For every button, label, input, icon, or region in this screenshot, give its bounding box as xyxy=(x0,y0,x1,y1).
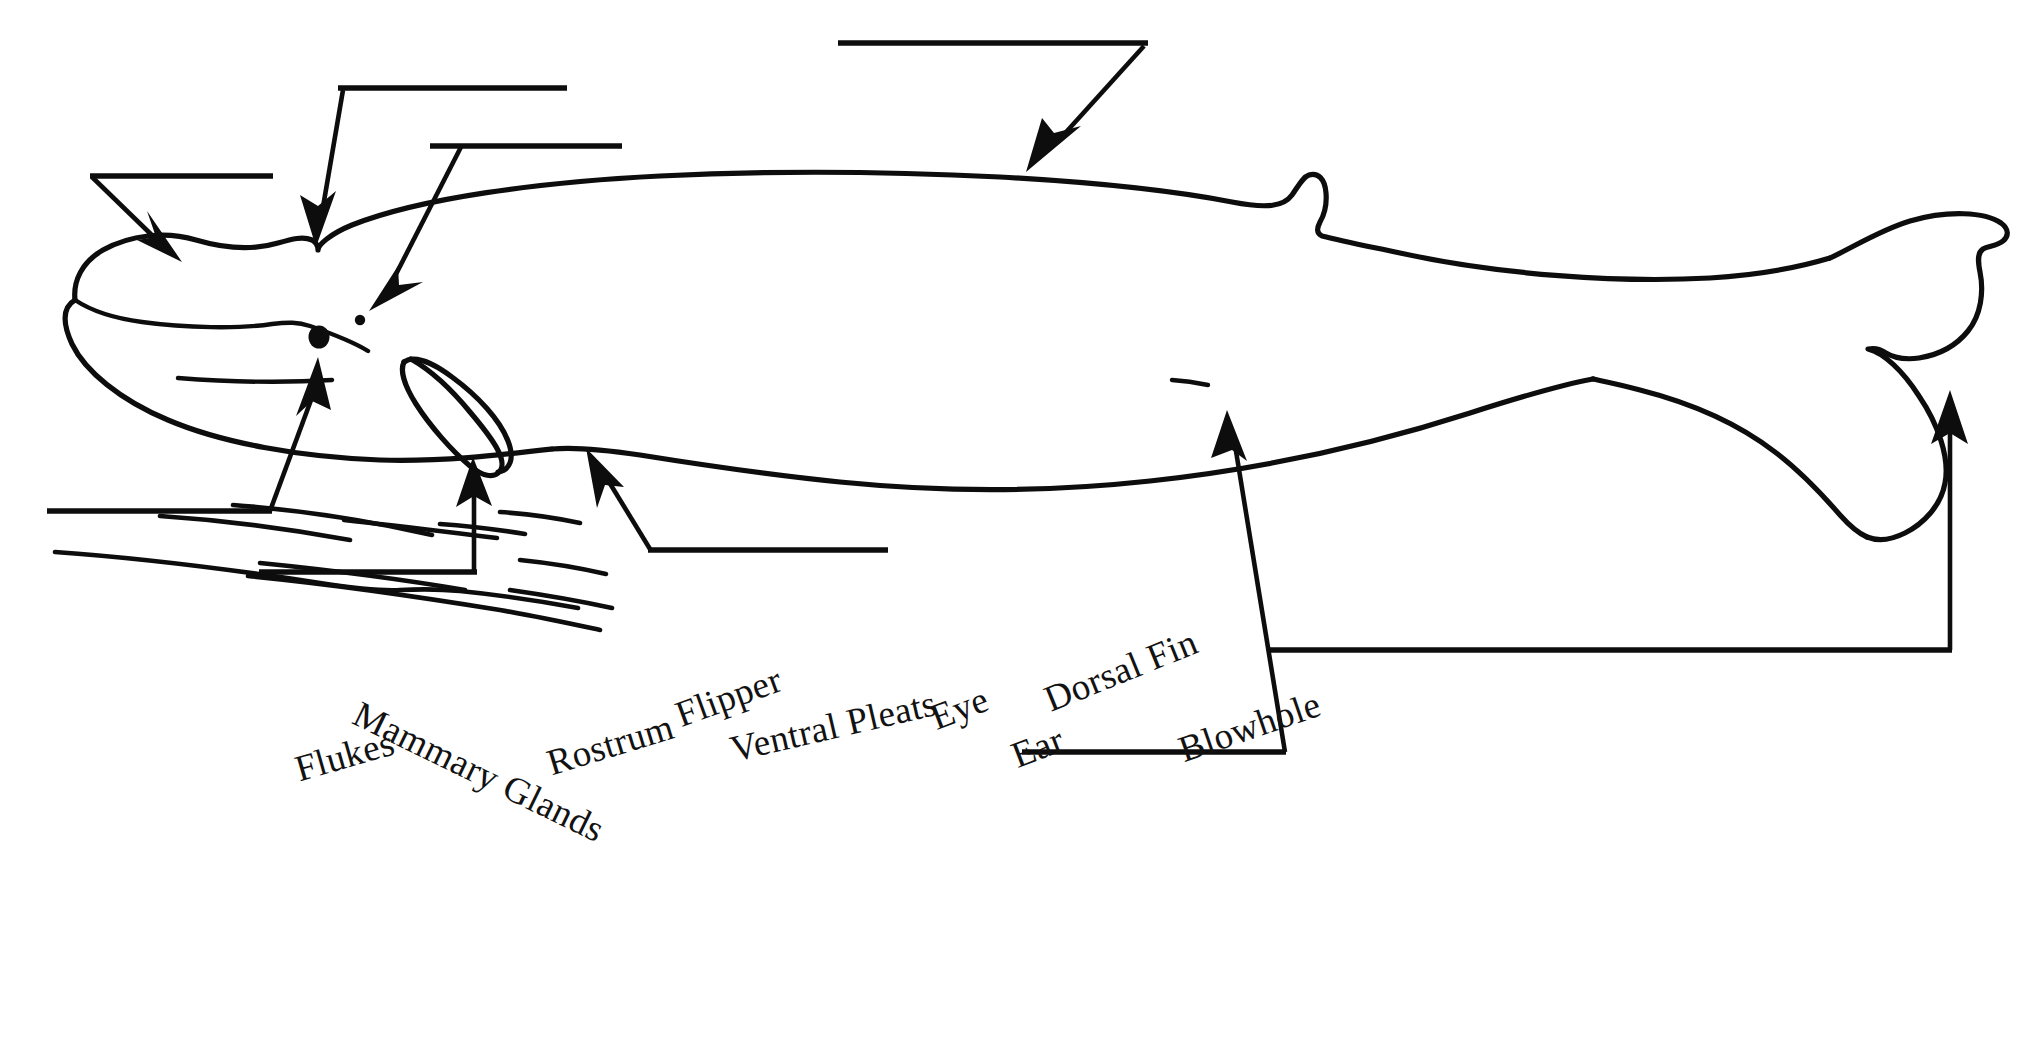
whale-body-outline xyxy=(65,172,2007,539)
dorsal-contour xyxy=(75,172,1830,300)
answer-blank-ventral-pleats[interactable] xyxy=(259,457,492,572)
worksheet-page: Flukes Mammary Glands Rostrum Flipper Ve… xyxy=(0,0,2023,1045)
pleat-line-4 xyxy=(55,552,578,608)
leader-rostrum xyxy=(92,177,160,243)
arrowhead-ear xyxy=(369,266,423,311)
leader-dorsal-fin xyxy=(1058,46,1144,141)
ventral-slit-mark xyxy=(1172,380,1208,385)
ear-dot xyxy=(355,315,365,325)
leader-ear xyxy=(392,147,461,282)
answer-blank-ear[interactable] xyxy=(369,146,622,311)
fluke-upper-lobe xyxy=(1830,214,2007,359)
answer-blank-flukes[interactable] xyxy=(1268,390,1968,650)
ventral-contour xyxy=(552,379,1593,489)
answer-blank-blowhole[interactable] xyxy=(300,88,567,247)
ventral-pleats xyxy=(55,505,612,630)
fluke-lower-lobe xyxy=(1867,349,1946,540)
answer-blank-dorsal-fin[interactable] xyxy=(838,43,1148,172)
answer-blank-flipper[interactable] xyxy=(586,448,888,550)
pleat-line-1 xyxy=(160,516,350,540)
leader-flipper xyxy=(606,477,650,549)
peduncle-lower-contour xyxy=(1593,379,1867,537)
arrowhead-eye xyxy=(296,357,331,416)
arrowhead-mammary-glands xyxy=(1211,410,1247,461)
jaw-crease-line xyxy=(178,378,332,382)
eye-dot xyxy=(309,326,330,349)
pleat-line-8 xyxy=(520,560,606,574)
pleat-line-7 xyxy=(500,512,580,523)
whale-diagram xyxy=(0,0,2023,1045)
